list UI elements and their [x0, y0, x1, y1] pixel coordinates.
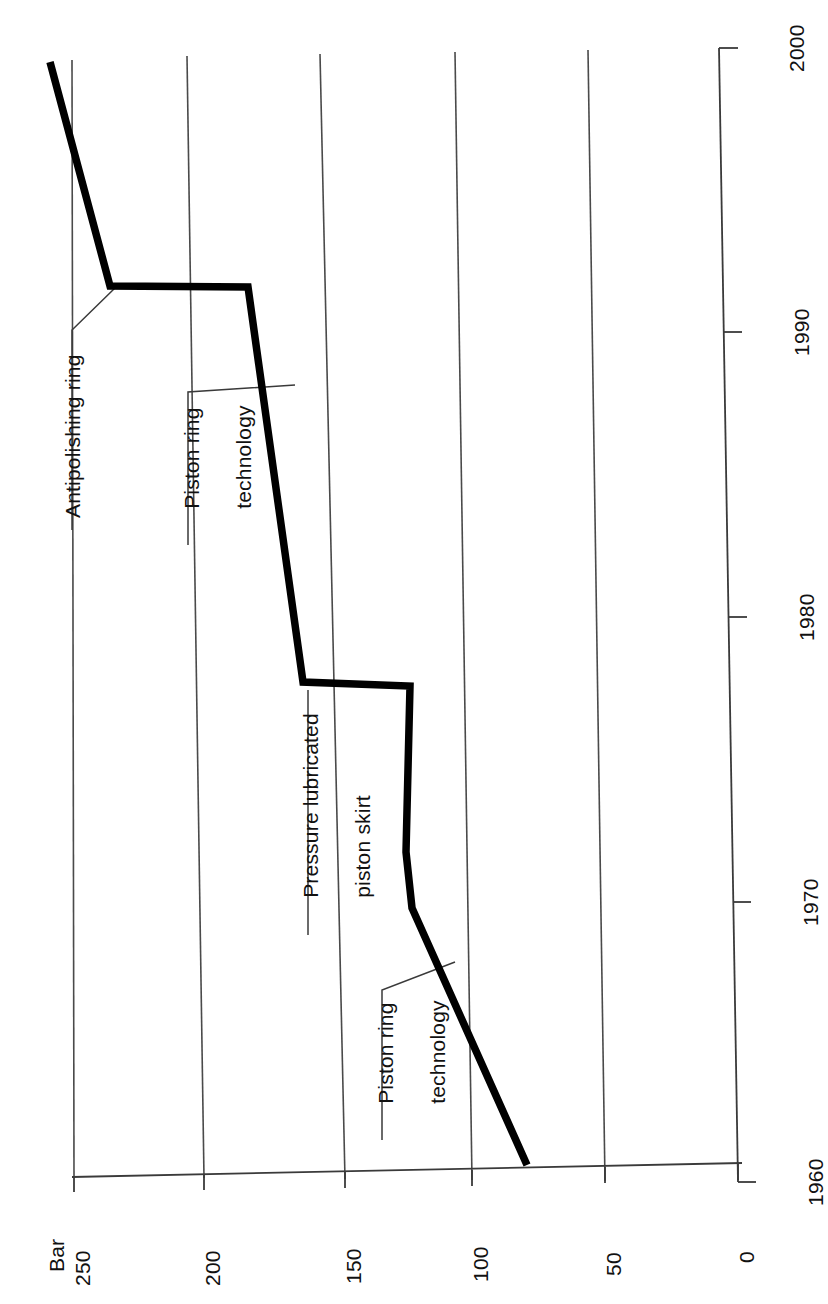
- annotation-line-2: technology: [426, 1000, 449, 1104]
- gridline-50: [588, 50, 605, 1181]
- value-tick-label-100: 100: [468, 1246, 493, 1282]
- value-axis-unit-label: Bar: [44, 1239, 69, 1272]
- year-tick-label-2000: 2000: [784, 24, 809, 72]
- gridline-250: [72, 60, 74, 1177]
- value-tick-label-250: 250: [70, 1250, 95, 1286]
- gridlines: [72, 50, 605, 1181]
- gridline-150: [320, 54, 345, 1179]
- value-tick-label-0: 0: [734, 1251, 759, 1263]
- annotation-pressure-lubricated-piston-skirt: Pressure lubricated piston skirt: [272, 713, 402, 922]
- value-axis: [72, 1163, 742, 1192]
- year-axis-line: [719, 48, 738, 1182]
- annotation-piston-ring-technology-upper: Piston ring technology: [153, 405, 283, 533]
- value-tick-label-50: 50: [601, 1252, 626, 1276]
- annotation-antipolishing-ring: Antipolishing ring: [60, 354, 86, 518]
- annotation-line-2: piston skirt: [351, 795, 374, 898]
- annotation-piston-ring-technology-lower: Piston ring technology: [347, 1000, 477, 1128]
- annotation-line-1: Piston ring: [374, 1002, 397, 1103]
- year-axis: [719, 48, 756, 1182]
- value-tick-label-150: 150: [341, 1248, 366, 1284]
- annotation-line-1: Piston ring: [180, 407, 203, 508]
- year-tick-label-1980: 1980: [794, 593, 819, 641]
- value-tick-label-200: 200: [200, 1250, 225, 1286]
- year-tick-label-1960: 1960: [803, 1158, 828, 1206]
- annotation-line-2: technology: [232, 405, 255, 509]
- annotation-line-1: Pressure lubricated: [299, 713, 322, 898]
- value-axis-line: [72, 1163, 742, 1177]
- year-tick-label-1970: 1970: [798, 878, 823, 926]
- gridline-200: [187, 56, 204, 1178]
- year-tick-label-1990: 1990: [789, 308, 814, 356]
